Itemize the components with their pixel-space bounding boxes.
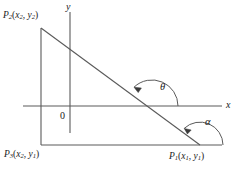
diagram-canvas: y x 0 P2(x2, y2) P3(x2, y1) P1(x1, y1) θ… — [0, 0, 235, 170]
diagram-vector-layer — [0, 0, 235, 170]
alpha-arc-arrowhead — [184, 128, 191, 134]
p3-paren-close: ) — [36, 149, 39, 159]
theta-angle-label: θ — [160, 82, 165, 93]
p1-paren-close: ) — [201, 151, 204, 161]
point-label-p1: P1(x1, y1) — [169, 152, 204, 162]
hypotenuse-p2-p1 — [41, 28, 200, 145]
theta-arc-arrowhead — [134, 87, 141, 92]
origin-label: 0 — [60, 111, 65, 121]
x-axis-label: x — [226, 100, 230, 110]
theta-angle-arc — [134, 80, 178, 106]
point-label-p3: P3(x2, y1) — [4, 150, 39, 160]
y-axis-label: y — [66, 2, 70, 12]
alpha-angle-label: α — [205, 117, 211, 128]
p2-paren-close: ) — [35, 10, 38, 20]
alpha-angle-arc — [184, 122, 223, 145]
point-label-p2: P2(x2, y2) — [3, 11, 38, 21]
